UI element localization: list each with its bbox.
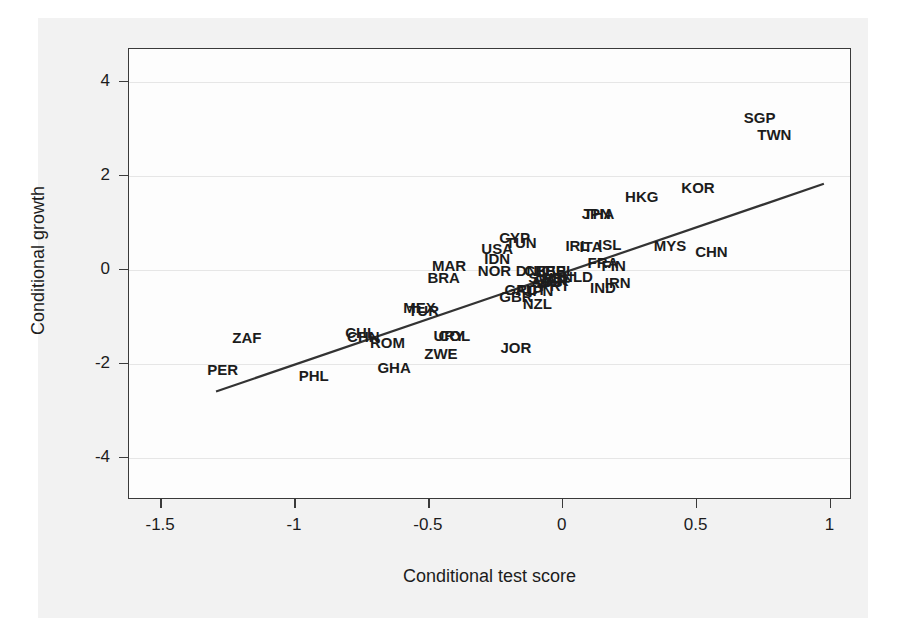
x-tick-label: -1 [286,515,301,535]
y-tick-label: -2 [68,353,110,373]
data-point-label: PER [207,361,238,378]
data-point-label: ZAF [232,328,261,345]
data-point-label: ISL [598,236,621,253]
figure-margin-top [0,0,899,18]
data-point-label: PHL [299,366,329,383]
x-tick-mark [428,499,430,508]
data-point-label: CHN [347,327,380,344]
data-point-label: NLD [562,268,593,285]
x-tick-mark [294,499,296,508]
data-point-label: CHN [695,242,728,259]
data-point-label: BRA [427,269,460,286]
x-tick-label: -1.5 [145,515,174,535]
x-tick-mark [562,499,564,508]
scatter-plot-figure: Conditional growth Conditional test scor… [0,0,899,636]
x-tick-mark [160,499,162,508]
x-tick-label: -0.5 [413,515,442,535]
y-tick-label: 4 [68,71,110,91]
figure-margin-bottom [0,618,899,636]
data-point-label: TWN [757,125,791,142]
y-axis-title: Conditional growth [28,131,49,391]
y-tick-mark [119,457,128,459]
y-tick-mark [119,175,128,177]
data-point-label: THA [584,205,615,222]
data-point-label: SGP [744,109,776,126]
x-tick-mark [696,499,698,508]
data-point-label: JOR [501,339,532,356]
x-tick-mark [830,499,832,508]
data-point-label: TUN [506,234,537,251]
data-point-label: IRN [605,274,631,291]
y-tick-mark [119,269,128,271]
data-point-label: KOR [681,179,714,196]
x-tick-label: 1 [825,515,834,535]
data-point-label: TUR [408,302,439,319]
data-point-label: ZWE [424,345,457,362]
data-point-label: NZL [523,294,552,311]
y-tick-mark [119,81,128,83]
y-tick-mark [119,363,128,365]
x-axis-title: Conditional test score [128,566,851,587]
y-tick-label: -4 [68,447,110,467]
y-tick-label: 2 [68,165,110,185]
data-point-label: MYS [654,237,687,254]
plot-area: ZAFPERPHLGHAROMCHLCHNZWEURYCOLJORMEXTURM… [128,48,851,499]
figure-margin-right [868,0,899,636]
x-tick-label: 0.5 [684,515,708,535]
x-tick-label: 0 [557,515,566,535]
data-point-label: COL [439,327,471,344]
data-point-label: HKG [625,187,658,204]
y-tick-label: 0 [68,259,110,279]
data-point-label: GHA [377,358,410,375]
data-point-label: FIN [602,257,626,274]
